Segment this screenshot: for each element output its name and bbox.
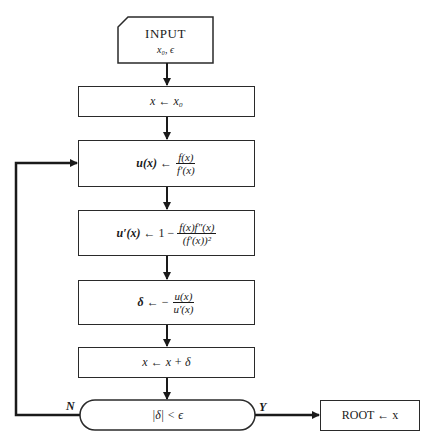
- assign-arrow: ←: [160, 156, 172, 171]
- uprime-denominator: (f′(x))²: [181, 234, 213, 246]
- input-node: INPUT x₀, ϵ: [118, 17, 213, 63]
- edge-label-yes: Y: [259, 400, 266, 415]
- uprime-lhs: u′(x): [117, 226, 141, 241]
- init-rhs: x₀: [173, 94, 183, 109]
- root-text: ROOT ← x: [342, 408, 398, 423]
- delta-fraction: u(x) u′(x): [171, 290, 195, 315]
- decision-node: |δ| < ϵ: [80, 400, 255, 430]
- assign-arrow: ← −: [147, 295, 169, 310]
- delta-lhs: δ: [137, 295, 143, 310]
- input-title: INPUT: [145, 26, 186, 42]
- uprime-step: u′(x) ← 1 − f(x)f″(x) (f′(x))²: [78, 210, 255, 256]
- u-fraction: f(x) f′(x): [175, 151, 197, 176]
- u-step: u(x) ← f(x) f′(x): [78, 140, 255, 187]
- uprime-prefix: 1 −: [159, 226, 175, 241]
- update-step: x ← x + δ: [78, 347, 255, 378]
- input-params: x₀, ϵ: [157, 44, 174, 55]
- u-lhs: u(x): [136, 156, 157, 171]
- u-numerator: f(x): [176, 151, 195, 164]
- delta-step: δ ← − u(x) u′(x): [78, 280, 255, 325]
- uprime-fraction: f(x)f″(x) (f′(x))²: [177, 221, 216, 246]
- init-lhs: x: [150, 94, 155, 109]
- edge-label-no: N: [66, 399, 75, 414]
- delta-numerator: u(x): [173, 290, 195, 303]
- init-step: x ← x₀: [78, 86, 255, 117]
- u-denominator: f′(x): [175, 164, 197, 176]
- decision-text: |δ| < ϵ: [152, 408, 183, 423]
- uprime-numerator: f(x)f″(x): [177, 221, 216, 234]
- assign-arrow: ←: [158, 94, 170, 109]
- update-text: x ← x + δ: [142, 355, 190, 370]
- assign-arrow: ←: [144, 226, 156, 241]
- root-output: ROOT ← x: [320, 400, 420, 431]
- delta-denominator: u′(x): [171, 303, 195, 315]
